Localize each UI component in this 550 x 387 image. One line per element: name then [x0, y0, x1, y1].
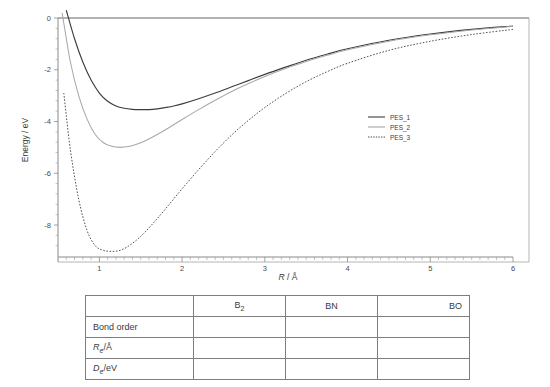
table-cell-empty[interactable]	[286, 317, 378, 338]
table-cell-empty[interactable]	[378, 359, 470, 380]
plot-frame	[58, 18, 529, 262]
table-row: Bond order	[86, 317, 470, 338]
molecular-properties-table: B2 BN BO Bond orderRe/ÅDe/eV	[85, 295, 470, 380]
table-header-bo: BO	[378, 296, 470, 317]
potential-energy-figure: 0-2-4-6-8 123456 Energy / eV R / Å PES_1…	[0, 0, 550, 285]
x-axis-ticks: 123456	[66, 257, 515, 273]
legend-label-pes-1: PES_1	[390, 114, 411, 122]
table-header-b2: B2	[194, 296, 286, 317]
answer-table-container: B2 BN BO Bond orderRe/ÅDe/eV	[85, 295, 469, 380]
table-header-bn: BN	[286, 296, 378, 317]
y-axis-label: Energy / eV	[20, 117, 30, 162]
y-axis-ticks: 0-2-4-6-8	[44, 14, 58, 246]
table-cell-empty[interactable]	[194, 317, 286, 338]
x-tick-label: 1	[97, 264, 101, 273]
legend-label-pes-3: PES_3	[390, 134, 411, 142]
y-tick-label: -6	[44, 169, 51, 178]
table-header-row: B2 BN BO	[86, 296, 470, 317]
chart-legend: PES_1 PES_2 PES_3	[368, 114, 411, 142]
y-tick-label: 0	[47, 14, 51, 23]
x-tick-label: 3	[263, 264, 267, 273]
y-tick-label: -8	[44, 221, 51, 230]
y-tick-label: -4	[44, 117, 51, 126]
legend-entry-pes-3: PES_3	[368, 134, 411, 142]
x-tick-label: 2	[180, 264, 184, 273]
legend-entry-pes-1: PES_1	[368, 114, 411, 122]
x-axis-label: R / Å	[279, 272, 298, 282]
table-row-label: De/eV	[86, 359, 194, 380]
x-tick-label: 5	[428, 264, 432, 273]
table-row-label: Bond order	[86, 317, 194, 338]
table-cell-empty[interactable]	[286, 338, 378, 359]
table-row-label: Re/Å	[86, 338, 194, 359]
table-cell-empty[interactable]	[286, 359, 378, 380]
x-axis-label-units: / Å	[285, 272, 298, 282]
table-cell-empty[interactable]	[194, 338, 286, 359]
x-tick-label: 4	[345, 264, 349, 273]
y-tick-label: -2	[44, 65, 51, 74]
table-row: Re/Å	[86, 338, 470, 359]
curve-pes-2	[62, 13, 513, 148]
table-cell-empty[interactable]	[194, 359, 286, 380]
legend-entry-pes-2: PES_2	[368, 124, 411, 132]
table-row: De/eV	[86, 359, 470, 380]
table-corner-cell	[86, 296, 194, 317]
legend-label-pes-2: PES_2	[390, 124, 411, 132]
table-cell-empty[interactable]	[378, 338, 470, 359]
table-cell-empty[interactable]	[378, 317, 470, 338]
x-tick-label: 6	[511, 264, 515, 273]
chart-canvas: 0-2-4-6-8 123456 Energy / eV R / Å PES_1…	[0, 0, 550, 285]
curve-pes-3	[64, 29, 513, 251]
curve-pes-1	[66, 10, 513, 109]
